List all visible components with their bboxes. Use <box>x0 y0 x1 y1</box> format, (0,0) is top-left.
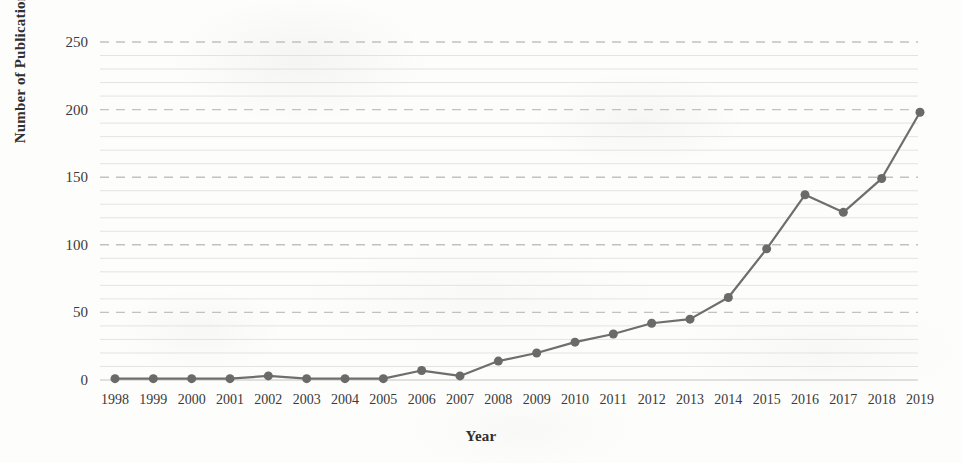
chart-page: Number of Publications Year 050100150200… <box>0 0 962 463</box>
data-point-marker[interactable] <box>379 374 388 383</box>
y-tick-label: 0 <box>40 372 88 389</box>
data-point-marker[interactable] <box>801 190 810 199</box>
data-point-marker[interactable] <box>149 374 158 383</box>
x-tick-label: 2015 <box>753 392 781 408</box>
data-point-marker[interactable] <box>686 315 695 324</box>
x-tick-label: 2006 <box>408 392 436 408</box>
y-tick-label: 250 <box>40 34 88 51</box>
data-point-marker[interactable] <box>187 374 196 383</box>
data-point-marker[interactable] <box>456 371 465 380</box>
x-tick-label: 2017 <box>829 392 857 408</box>
x-tick-label: 2014 <box>714 392 742 408</box>
data-point-marker[interactable] <box>302 374 311 383</box>
x-tick-label: 2016 <box>791 392 819 408</box>
data-point-marker[interactable] <box>609 330 618 339</box>
major-gridlines <box>100 42 918 380</box>
data-point-marker[interactable] <box>877 174 886 183</box>
y-tick-label: 150 <box>40 169 88 186</box>
data-point-marker[interactable] <box>839 208 848 217</box>
y-tick-label: 50 <box>40 304 88 321</box>
x-tick-label: 1999 <box>139 392 167 408</box>
data-point-marker[interactable] <box>264 371 273 380</box>
x-tick-label: 2001 <box>216 392 244 408</box>
x-tick-label: 2011 <box>600 392 627 408</box>
data-point-marker[interactable] <box>647 319 656 328</box>
data-point-marker[interactable] <box>111 374 120 383</box>
x-tick-label: 2002 <box>254 392 282 408</box>
x-tick-label: 2009 <box>523 392 551 408</box>
x-tick-label: 2013 <box>676 392 704 408</box>
x-tick-label: 2005 <box>369 392 397 408</box>
minor-gridlines <box>100 56 918 367</box>
x-tick-label: 2008 <box>484 392 512 408</box>
data-point-marker[interactable] <box>762 244 771 253</box>
x-tick-label: 2012 <box>638 392 666 408</box>
data-point-marker[interactable] <box>916 108 925 117</box>
data-point-marker[interactable] <box>494 357 503 366</box>
x-tick-label: 2019 <box>906 392 934 408</box>
x-tick-label: 2007 <box>446 392 474 408</box>
data-point-marker[interactable] <box>724 293 733 302</box>
x-tick-label: 2018 <box>868 392 896 408</box>
line-chart: Number of Publications Year 050100150200… <box>0 0 962 463</box>
y-tick-label: 200 <box>40 101 88 118</box>
x-tick-label: 2000 <box>178 392 206 408</box>
y-tick-label: 100 <box>40 236 88 253</box>
data-point-marker[interactable] <box>532 348 541 357</box>
x-tick-label: 2003 <box>293 392 321 408</box>
x-tick-label: 2004 <box>331 392 359 408</box>
data-point-marker[interactable] <box>571 338 580 347</box>
x-tick-label: 2010 <box>561 392 589 408</box>
data-point-marker[interactable] <box>417 366 426 375</box>
data-point-marker[interactable] <box>341 374 350 383</box>
data-point-marker[interactable] <box>226 374 235 383</box>
x-tick-label: 1998 <box>101 392 129 408</box>
